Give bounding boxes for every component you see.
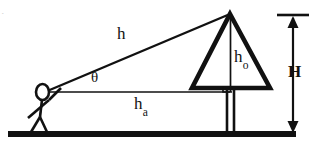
tree-trunk [227, 88, 234, 134]
label-total-height-H: H [288, 63, 301, 80]
dimension-arrowhead-top [288, 16, 299, 28]
label-angle-theta: θ [91, 70, 98, 85]
label-object-height-letter: h [234, 47, 243, 66]
label-adjacent-ha: ha [134, 95, 148, 116]
figure-canvas: ⋅ h θ ha ho H [0, 0, 310, 148]
diagram-svg [0, 0, 310, 148]
label-object-height-ho: ho [234, 48, 248, 69]
ground-line [8, 131, 296, 137]
observer-arm-lower [28, 100, 49, 118]
observer-leg-left [31, 117, 40, 132]
label-adjacent-base-subscript: a [143, 106, 148, 119]
label-object-height-subscript: o [243, 59, 249, 72]
label-adjacent-base-letter: h [134, 94, 143, 113]
observer-leg-right [40, 117, 47, 132]
observer-eye-oval [36, 84, 49, 100]
corner-artifact-mark: ⋅ [1, 9, 5, 20]
label-hypotenuse-h: h [117, 25, 126, 42]
